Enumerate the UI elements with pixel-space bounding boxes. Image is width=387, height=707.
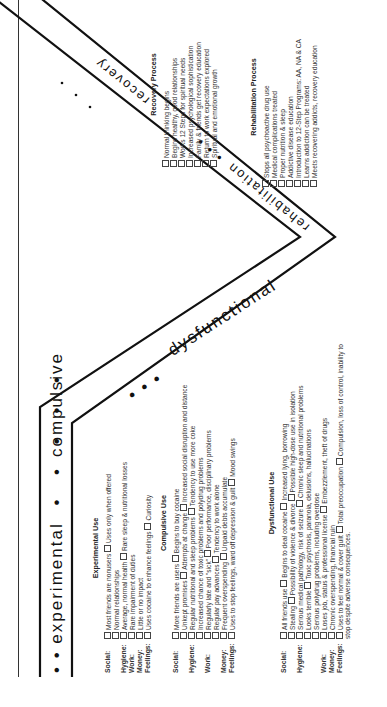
checkbox[interactable] (312, 632, 319, 639)
list-item: Works 12 Steps for spiritual needs (178, 2, 186, 167)
checkbox[interactable] (188, 508, 195, 515)
checkbox[interactable] (220, 553, 227, 560)
checkbox[interactable] (286, 180, 293, 187)
checkbox[interactable] (112, 632, 119, 639)
checkbox[interactable] (288, 494, 295, 501)
row: Hygiene:Serious medical pathology, risk … (296, 333, 304, 673)
row: Social:All friends use Begins to deal co… (280, 333, 288, 673)
item: Begins to buy cocaine (172, 489, 179, 554)
checkbox[interactable] (336, 458, 343, 465)
checkbox[interactable] (320, 632, 327, 639)
list-item: Family & friends get recovery education (194, 2, 202, 167)
experimental-label: • • experimental (47, 522, 66, 673)
checkbox[interactable] (336, 526, 343, 533)
checkbox[interactable] (104, 632, 111, 639)
checkbox[interactable] (178, 160, 185, 167)
item: Uses to stop feelings, ward off depressi… (229, 488, 236, 630)
checkbox[interactable] (296, 632, 303, 639)
row-label: Money: (136, 639, 144, 673)
section-title: Rehabilitation Process (250, 7, 258, 187)
checkbox[interactable] (280, 580, 287, 587)
checkbox[interactable] (228, 632, 235, 639)
checkbox[interactable] (162, 160, 169, 167)
checkbox[interactable] (262, 180, 269, 187)
checkbox[interactable] (180, 632, 187, 639)
item: Total preoccupation (337, 467, 344, 524)
checkbox[interactable] (310, 180, 317, 187)
item: Rare impairment of duties (128, 555, 135, 631)
checkbox[interactable] (280, 503, 287, 510)
list-item: Introduction to 12-Step Programs: AA, NA… (294, 7, 302, 187)
item: Spiritual and emotional growth (211, 69, 218, 158)
checkbox[interactable] (336, 632, 343, 639)
row: Unkept promises Attempts at change Incre… (180, 373, 188, 673)
checkbox[interactable] (144, 523, 151, 530)
item: Begins to deal cocaine (280, 511, 287, 577)
checkbox[interactable] (288, 632, 295, 639)
item: Increased psychological sophistication (186, 46, 193, 158)
checkbox[interactable] (304, 632, 311, 639)
checkbox[interactable] (202, 160, 209, 167)
checkbox[interactable] (170, 160, 177, 167)
checkbox[interactable] (120, 553, 127, 560)
item: Works 12 Steps for spiritual needs (178, 58, 185, 158)
section-title: Dysfunctional Use (268, 333, 276, 673)
checkbox[interactable] (212, 632, 219, 639)
row-label: Money: (328, 639, 336, 673)
list-item: Proper nutrition & sleep (278, 7, 286, 187)
checkbox[interactable] (280, 632, 287, 639)
section-title: Recovery Process (150, 2, 158, 167)
checkbox[interactable] (204, 632, 211, 639)
row: Regular pay advances Tendency to work al… (212, 373, 220, 673)
item: Increased chance of toxic problems and p… (196, 457, 203, 630)
checkbox[interactable] (186, 160, 193, 167)
checkbox[interactable] (304, 582, 311, 589)
band-label-compulsive: compulsive (47, 352, 67, 457)
row-label: Feelings: (336, 639, 352, 673)
item: Uses to feel normal & cover guilt (337, 535, 344, 630)
checkbox[interactable] (212, 556, 219, 563)
item: Possible high-dose use in isolation (288, 391, 295, 492)
item: Unkept promises (180, 581, 187, 630)
checkbox[interactable] (220, 632, 227, 639)
checkbox[interactable] (180, 504, 187, 511)
row-label: Social: (172, 639, 180, 673)
list-item: Spiritual and emotional growth (210, 2, 218, 167)
checkbox[interactable] (120, 632, 127, 639)
row-label: Work: (128, 639, 136, 673)
row-label: Hygiene: (188, 639, 196, 673)
item: Regular nutritional and sleep problems (188, 517, 195, 630)
row-label (212, 639, 220, 673)
row-label (180, 639, 188, 673)
checkbox[interactable] (128, 632, 135, 639)
checkbox[interactable] (288, 597, 295, 604)
checkbox[interactable] (180, 572, 187, 579)
row-label: Social: (104, 639, 120, 673)
row: Increased chance of toxic problems and p… (196, 373, 204, 673)
checkbox[interactable] (172, 555, 179, 562)
row: Work:Loses job, status & professional li… (320, 333, 328, 673)
item: Stealing (288, 606, 295, 630)
item: Loses job, status & professional license (321, 515, 328, 630)
checkbox[interactable] (296, 500, 303, 507)
checkbox[interactable] (196, 632, 203, 639)
checkbox[interactable] (278, 180, 285, 187)
checkbox[interactable] (188, 632, 195, 639)
checkbox[interactable] (204, 550, 211, 557)
list-item: Addictive disease education (286, 7, 294, 187)
item: Increased lying, borrowing (280, 424, 287, 501)
checkbox[interactable] (270, 180, 277, 187)
checkbox[interactable] (104, 545, 111, 552)
checkbox[interactable] (294, 180, 301, 187)
checkbox[interactable] (136, 632, 143, 639)
checkbox[interactable] (228, 479, 235, 486)
list-item: Begins healthy, good relationships (170, 2, 178, 167)
checkbox[interactable] (172, 632, 179, 639)
checkbox[interactable] (194, 160, 201, 167)
checkbox[interactable] (328, 632, 335, 639)
checkbox[interactable] (302, 180, 309, 187)
checkbox[interactable] (144, 632, 151, 639)
checkbox[interactable] (320, 506, 327, 513)
row: Looks terrible Toxic psychosis, paranoia… (304, 333, 312, 673)
checkbox[interactable] (210, 160, 217, 167)
